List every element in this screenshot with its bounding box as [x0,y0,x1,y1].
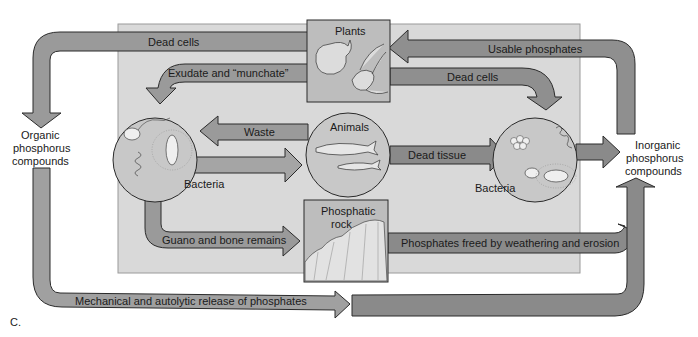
label-dead-cells-right: Dead cells [447,71,499,83]
label-bacteria-left: Bacteria [184,178,225,190]
label-weathering: Phosphates freed by weathering and erosi… [401,237,619,249]
label-inorganic-2: phosphorus [626,152,684,164]
label-inorganic-1: Inorganic [635,139,681,151]
label-organic-3: compounds [12,155,69,167]
label-guano: Guano and bone remains [162,234,287,246]
label-bacteria-right: Bacteria [475,182,516,194]
label-usable-phosphates: Usable phosphates [488,43,583,55]
phosphorus-cycle-diagram: Dead cells Exudate and “munchate” Usable… [0,0,698,337]
label-waste: Waste [244,126,275,138]
label-phosphatic-rock-2: rock [331,218,352,230]
label-dead-cells-left: Dead cells [148,36,200,48]
label-animals: Animals [330,121,370,133]
label-dead-tissue: Dead tissue [408,149,466,161]
label-inorganic-3: compounds [625,165,682,177]
label-mechanical-release: Mechanical and autolytic release of phos… [75,295,307,307]
label-exudate: Exudate and “munchate” [168,67,289,79]
arrow-bacteria-to-inorganic [576,136,620,168]
label-plants: Plants [335,25,366,37]
label-organic-2: phosphorus [13,142,71,154]
label-phosphatic-rock-1: Phosphatic [321,205,376,217]
label-organic-1: Organic [21,129,60,141]
figure-label: C. [10,316,21,328]
